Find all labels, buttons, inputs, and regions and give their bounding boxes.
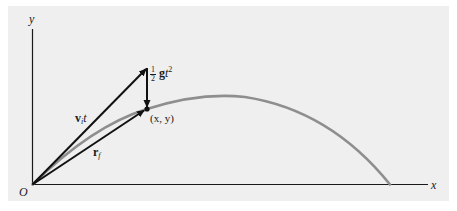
rf-label-sub: f <box>98 151 100 160</box>
trajectory-curve <box>33 96 391 185</box>
vi-t-label: vit <box>75 112 87 126</box>
rf-vector <box>33 111 145 185</box>
vi-t-vector <box>33 69 147 185</box>
one-half-fraction: 12 <box>150 66 156 83</box>
projectile-diagram <box>0 0 457 211</box>
y-axis-label: y <box>29 13 34 25</box>
vi-t-label-suffix: t <box>83 111 86 125</box>
rf-label: rf <box>93 146 101 160</box>
squared-exponent: 2 <box>168 65 172 74</box>
x-axis-label: x <box>431 179 436 191</box>
gravity-displacement-label: 12gt2 <box>150 66 172 83</box>
point-label: (x, y) <box>150 113 174 124</box>
position-point <box>144 106 149 111</box>
origin-label: O <box>19 186 28 198</box>
